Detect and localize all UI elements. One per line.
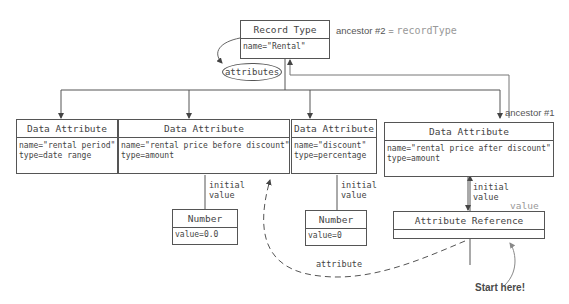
attribute-edge-label: attribute — [316, 259, 362, 269]
number-header: Number — [306, 211, 366, 229]
record-type-header: Record Type — [241, 21, 329, 39]
record-type-box[interactable]: Record Type name="Rental" — [240, 20, 330, 59]
data-attribute-box-discount[interactable]: Data Attribute name="discount" type=perc… — [291, 119, 377, 174]
value-label: value — [510, 201, 539, 211]
initial-value-label: initial value — [209, 180, 245, 200]
data-attribute-box-price-after-discount[interactable]: Data Attribute name="rental price after … — [384, 122, 554, 177]
record-type-body: name="Rental" — [241, 39, 329, 55]
number-body: value=0.0 — [173, 228, 237, 242]
number-box-0-0[interactable]: Number value=0.0 — [172, 209, 238, 245]
data-attribute-header: Data Attribute — [119, 120, 289, 138]
number-body: value=0 — [306, 229, 366, 243]
number-header: Number — [173, 210, 237, 228]
attributes-oval: attributes — [222, 63, 282, 81]
data-attribute-header: Data Attribute — [17, 120, 117, 138]
initial-value-label: initial value — [341, 180, 377, 200]
data-attribute-body: name="rental price after discount" type=… — [385, 141, 553, 167]
data-attribute-box-price-before-discount[interactable]: Data Attribute name="rental price before… — [118, 119, 290, 174]
attribute-reference-header: Attribute Reference — [394, 212, 544, 230]
ancestor-2-label: ancestor #2 = recordType — [336, 25, 457, 36]
attribute-reference-box[interactable]: Attribute Reference — [393, 211, 545, 239]
ancestor-1-label: ancestor #1 — [505, 107, 555, 118]
data-attribute-header: Data Attribute — [385, 123, 553, 141]
data-attribute-header: Data Attribute — [292, 120, 376, 138]
start-here-annotation: Start here! — [475, 282, 525, 293]
diagram-canvas: Record Type name="Rental" ancestor #2 = … — [0, 0, 569, 304]
ancestor-2-text: ancestor #2 = — [336, 25, 396, 36]
data-attribute-box-rental-period[interactable]: Data Attribute name="rental period" type… — [16, 119, 118, 174]
data-attribute-body: name="rental period" type=date range — [17, 138, 117, 164]
data-attribute-body: name="rental price before discount" type… — [119, 138, 289, 164]
ancestor-2-value: recordType — [396, 25, 456, 36]
number-box-0[interactable]: Number value=0 — [305, 210, 367, 246]
data-attribute-body: name="discount" type=percentage — [292, 138, 376, 164]
initial-value-label: initial value — [473, 182, 509, 202]
